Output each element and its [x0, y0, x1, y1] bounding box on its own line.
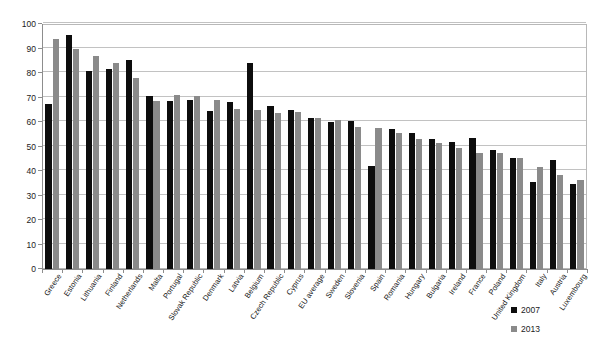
bar-group	[325, 24, 345, 269]
bar-2007	[247, 63, 253, 269]
bar-2013	[497, 153, 503, 269]
y-tick-label: 80	[0, 67, 42, 79]
bar-2013	[456, 148, 462, 269]
bar-2013	[436, 143, 442, 269]
bar-2007	[490, 150, 496, 269]
legend-label: 2007	[521, 305, 540, 315]
y-tick-label: 90	[0, 43, 42, 55]
bar-2013	[577, 180, 583, 269]
bar-2007	[227, 102, 233, 269]
bar-group	[203, 24, 223, 269]
bar-group	[365, 24, 385, 269]
bar-2007	[207, 111, 213, 269]
bar-2007	[449, 142, 455, 269]
bar-2007	[45, 104, 51, 269]
bar-2013	[355, 127, 361, 269]
bar-2013	[335, 120, 341, 269]
bar-2007	[348, 121, 354, 269]
bar-2007	[126, 60, 132, 269]
x-label-france: France	[467, 272, 488, 297]
bar-2013	[537, 167, 543, 269]
x-label-italy: Italy	[533, 272, 548, 289]
bar-group	[567, 24, 587, 269]
x-axis-category-labels: GreeceEstoniaLithuaniaFinlandNetherlands…	[42, 272, 587, 350]
bar-group	[345, 24, 365, 269]
bar-group	[547, 24, 567, 269]
bar-2013	[133, 78, 139, 269]
gridline-100	[43, 22, 586, 23]
x-label-bulgaria: Bulgaria	[424, 272, 447, 300]
bar-2013	[295, 112, 301, 269]
y-tick-label: 100	[0, 18, 42, 30]
bar-group	[183, 24, 203, 269]
y-tick-label: 0	[0, 263, 42, 275]
y-tick-label: 10	[0, 239, 42, 251]
y-tick-label: 50	[0, 141, 42, 153]
bar-2013	[53, 39, 59, 269]
bar-2013	[73, 49, 79, 270]
legend-swatch-2007-icon	[511, 307, 517, 313]
bar-2007	[550, 160, 556, 269]
bar-group	[284, 24, 304, 269]
bar-group	[163, 24, 183, 269]
bar-2007	[106, 69, 112, 269]
bar-2013	[476, 153, 482, 269]
bar-group	[62, 24, 82, 269]
bar-2007	[409, 133, 415, 269]
bar-group	[42, 24, 62, 269]
bar-2013	[275, 113, 281, 269]
bar-2013	[174, 95, 180, 269]
bar-2013	[254, 110, 260, 269]
bar-group	[405, 24, 425, 269]
bar-2013	[517, 158, 523, 269]
bar-group	[143, 24, 163, 269]
bar-2007	[66, 35, 72, 269]
bar-group	[123, 24, 143, 269]
bar-group	[506, 24, 526, 269]
x-tick	[587, 269, 588, 273]
bars-layer	[42, 24, 587, 269]
bar-group	[82, 24, 102, 269]
bar-group	[486, 24, 506, 269]
bar-group	[264, 24, 284, 269]
bar-2013	[375, 128, 381, 269]
bar-group	[244, 24, 264, 269]
x-label-greece: Greece	[42, 272, 63, 298]
y-tick-label: 30	[0, 190, 42, 202]
bar-2013	[416, 139, 422, 269]
bar-2007	[167, 101, 173, 269]
y-axis-tick-labels: 0102030405060708090100	[0, 24, 42, 269]
bar-2013	[194, 96, 200, 269]
y-tick-label: 70	[0, 92, 42, 104]
x-label-spain: Spain	[368, 272, 386, 293]
bar-2007	[530, 182, 536, 269]
y-tick-label: 20	[0, 214, 42, 226]
bar-2013	[214, 100, 220, 269]
y-tick-label: 40	[0, 165, 42, 177]
bar-2013	[396, 133, 402, 269]
bar-2013	[234, 109, 240, 269]
x-label-latvia: Latvia	[226, 272, 245, 294]
bar-2013	[93, 56, 99, 269]
bar-2007	[429, 139, 435, 269]
x-label-cyprus: Cyprus	[285, 272, 306, 297]
legend-item: 2007	[511, 305, 597, 315]
bar-2007	[389, 129, 395, 269]
y-tick-label: 60	[0, 116, 42, 128]
x-label-austria: Austria	[547, 272, 568, 297]
bar-chart: 0102030405060708090100 GreeceEstoniaLith…	[0, 0, 609, 351]
bar-2007	[510, 158, 516, 269]
bar-2013	[153, 101, 159, 269]
bar-2007	[288, 110, 294, 269]
bar-group	[385, 24, 405, 269]
bar-2013	[315, 118, 321, 269]
x-label-ireland: Ireland	[447, 272, 467, 296]
bar-2007	[86, 71, 92, 269]
legend-label: 2013	[521, 324, 540, 334]
bar-group	[224, 24, 244, 269]
bar-2007	[187, 100, 193, 269]
bar-group	[466, 24, 486, 269]
legend-item: 2013	[511, 324, 597, 334]
chart-legend: 20072013	[511, 305, 597, 343]
bar-2013	[557, 175, 563, 269]
